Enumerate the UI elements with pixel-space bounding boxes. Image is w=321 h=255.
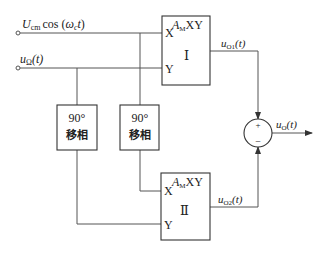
carrier-label: Ucmcos (ωct) [22, 17, 85, 32]
output-o1-label: uO1(t) [221, 37, 246, 51]
modulating-terminal [16, 66, 20, 70]
multiplier-2-y-port: Y [164, 218, 173, 232]
multiplier-1-id: Ⅰ [184, 48, 189, 63]
modulating-label: uΩ(t) [20, 52, 43, 67]
output-o-label: uO(t) [276, 118, 297, 132]
phase-shifter-1-angle: 90° [69, 111, 86, 125]
phase-shifter-2-name: 移相 [129, 128, 151, 142]
multiplier-2-id: Ⅱ [180, 203, 189, 218]
multiplier-2-gain: AMXY [171, 175, 203, 190]
multiplier-1-y-port: Y [165, 62, 174, 76]
ps2-to-mult2-x [140, 150, 161, 191]
output-o2-label: uO2(t) [218, 193, 243, 207]
summer-minus-sign: − [255, 136, 261, 147]
multiplier-1-x-port: X [165, 26, 174, 40]
summer-plus-sign: + [255, 120, 260, 130]
ps1-to-mult2-y [77, 150, 161, 224]
multiplier-1-gain: AMXY [171, 18, 203, 33]
carrier-terminal [16, 31, 20, 35]
ssb-modulator-diagram: Ucmcos (ωct) uΩ(t) AMXY X Y Ⅰ AMXY X Y Ⅱ… [0, 0, 321, 255]
phase-shifter-2-angle: 90° [132, 111, 149, 125]
mult1-output-wire [210, 51, 258, 119]
phase-shifter-1-name: 移相 [66, 128, 88, 142]
multiplier-2-x-port: X [164, 184, 173, 198]
